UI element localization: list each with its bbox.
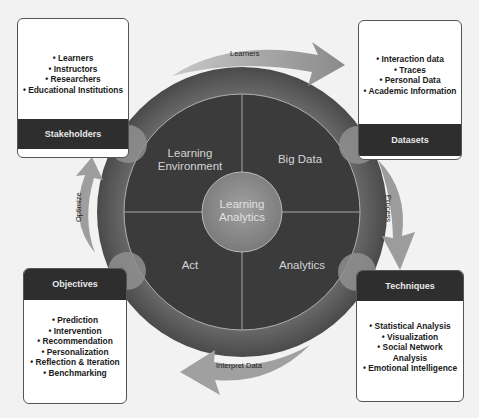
- quadrant-act: Act: [160, 259, 220, 272]
- arrow-label-learners: Learners: [230, 49, 260, 58]
- arrow-label-optimize: Optimize: [74, 192, 83, 222]
- list-item: • Social Network: [357, 342, 463, 353]
- quadrant-big-data: Big Data: [260, 153, 340, 166]
- list-item: • Recommendation: [24, 336, 126, 347]
- datasets-title: Datasets: [359, 124, 461, 156]
- list-item: • Researchers: [18, 74, 128, 85]
- stakeholders-box: • Learners • Instructors • Researchers •…: [17, 18, 129, 158]
- list-item: • Academic Information: [359, 86, 461, 97]
- techniques-list: • Statistical Analysis • Visualization •…: [357, 301, 463, 374]
- quadrant-label-line: Big Data: [260, 153, 340, 166]
- quadrant-label-line: Learning: [140, 147, 240, 160]
- datasets-box: • Interaction data • Traces • Personal D…: [358, 20, 462, 160]
- stakeholders-list: • Learners • Instructors • Researchers •…: [18, 19, 128, 107]
- quadrant-label-line: Act: [160, 259, 220, 272]
- objectives-title: Objectives: [24, 269, 126, 300]
- list-item: • Reflection & Iteration: [24, 357, 126, 368]
- quadrant-learning-environment: Learning Environment: [140, 147, 240, 173]
- list-item: • Personal Data: [359, 75, 461, 86]
- list-item: • Emotional Intelligence: [357, 363, 463, 374]
- center-label-line: Learning: [202, 198, 282, 211]
- list-item: • Instructors: [18, 64, 128, 75]
- list-item: • Personalization: [24, 347, 126, 358]
- list-item: • Statistical Analysis: [357, 321, 463, 332]
- quadrant-analytics: Analytics: [262, 259, 342, 272]
- arrow-label-interpret-data: Interpret Data: [216, 361, 262, 370]
- quadrant-label-line: Analytics: [262, 259, 342, 272]
- stakeholders-title: Stakeholders: [18, 119, 128, 149]
- list-item: • Visualization: [357, 332, 463, 343]
- list-item: Analysis: [357, 353, 463, 364]
- list-item: • Traces: [359, 65, 461, 76]
- objectives-list: • Prediction • Intervention • Recommenda…: [24, 300, 126, 378]
- techniques-title: Techniques: [357, 271, 463, 301]
- center-label: Learning Analytics: [202, 198, 282, 224]
- center-label-line: Analytics: [202, 211, 282, 224]
- list-item: • Learners: [18, 53, 128, 64]
- list-item: • Educational Institutions: [18, 85, 128, 96]
- arrow-label-process: Process: [384, 195, 393, 222]
- objectives-box: Objectives • Prediction • Intervention •…: [23, 268, 127, 404]
- techniques-box: Techniques • Statistical Analysis • Visu…: [356, 270, 464, 402]
- list-item: • Prediction: [24, 315, 126, 326]
- list-item: • Benchmarking: [24, 368, 126, 379]
- quadrant-label-line: Environment: [140, 160, 240, 173]
- list-item: • Interaction data: [359, 54, 461, 65]
- list-item: • Intervention: [24, 326, 126, 337]
- datasets-list: • Interaction data • Traces • Personal D…: [359, 21, 461, 124]
